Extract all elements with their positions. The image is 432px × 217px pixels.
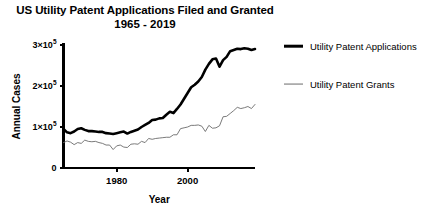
legend-item[interactable]: Utility Patent Applications bbox=[284, 38, 432, 54]
legend-item-label: Utility Patent Applications bbox=[310, 41, 417, 52]
x-axis-tick-label: 1980 bbox=[106, 175, 127, 186]
chart-figure: US Utility Patent Applications Filed and… bbox=[0, 0, 432, 217]
legend-item[interactable]: Utility Patent Grants bbox=[284, 76, 432, 92]
y-axis-tick-label: 0 bbox=[0, 163, 57, 173]
x-axis-tick-label: 2000 bbox=[177, 175, 198, 186]
data-series-line bbox=[64, 48, 256, 134]
legend-line-swatch bbox=[284, 79, 303, 89]
x-axis-title: Year bbox=[149, 194, 170, 205]
legend-swatch-bar bbox=[284, 84, 303, 85]
axes-group bbox=[60, 43, 256, 172]
legend-swatch-bar bbox=[284, 45, 303, 48]
y-axis-tick-label: 3×105 bbox=[0, 40, 57, 50]
y-axis-title: Annual Cases bbox=[11, 45, 22, 168]
chart-legend: Utility Patent ApplicationsUtility Paten… bbox=[284, 38, 432, 114]
legend-line-swatch bbox=[284, 41, 303, 51]
data-series-group bbox=[64, 48, 256, 149]
legend-item-label: Utility Patent Grants bbox=[310, 79, 394, 90]
y-axis-tick-label: 2×105 bbox=[0, 81, 57, 91]
y-axis-tick-label: 1×105 bbox=[0, 122, 57, 132]
data-series-line bbox=[64, 104, 256, 149]
